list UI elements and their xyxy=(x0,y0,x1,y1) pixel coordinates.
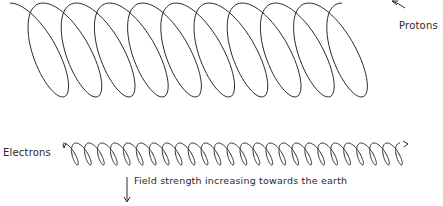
proton-helix-path xyxy=(10,3,367,97)
field-strength-label: Field strength increasing towards the ea… xyxy=(134,175,347,186)
field-direction-arrow-icon xyxy=(124,177,130,202)
electron-start-arrow-icon xyxy=(63,143,66,148)
proton-arrow-icon xyxy=(392,1,405,8)
electrons-label: Electrons xyxy=(3,147,51,158)
protons-label: Protons xyxy=(399,20,438,31)
electron-end-arrow-icon xyxy=(403,141,408,147)
electron-helix-path xyxy=(63,143,402,165)
